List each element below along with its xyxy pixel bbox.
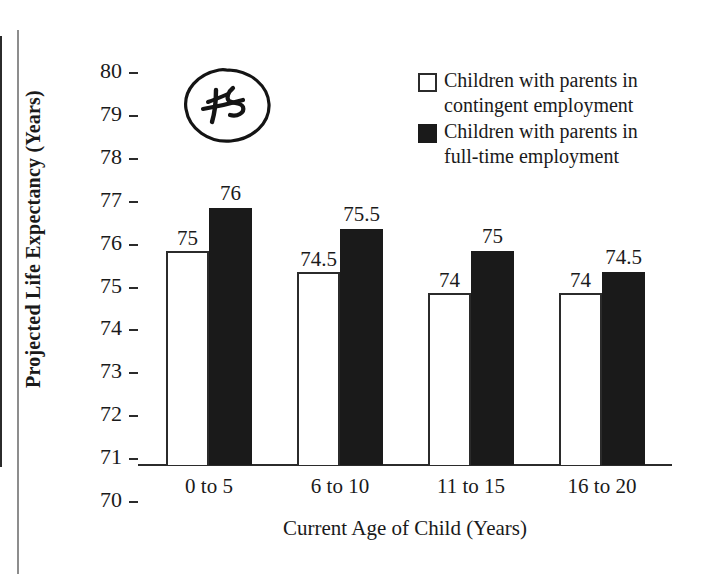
y-axis-tick-label: 76: [100, 231, 122, 255]
y-axis-title: Projected Life Expectancy (Years): [22, 4, 58, 474]
legend-swatch-filled-square-icon: [418, 124, 437, 143]
bar-value-label: 75.5: [343, 203, 380, 225]
bar-value-label: 74.5: [300, 248, 337, 270]
bar-fulltime-employment: 75: [471, 251, 514, 466]
x-axis-title: Current Age of Child (Years): [138, 516, 672, 541]
y-axis-tick: 74: [129, 329, 138, 331]
bar-contingent-employment: 74: [428, 293, 471, 465]
y-axis-line: [0, 36, 2, 467]
y-axis-tick: 77: [129, 201, 138, 203]
y-axis-tick-label: 79: [100, 102, 122, 126]
bar-value-label: 74: [439, 269, 460, 291]
bar-contingent-employment: 74.5: [297, 272, 340, 465]
bar-fulltime-employment: 74.5: [602, 272, 645, 465]
y-axis-tick: 70: [129, 501, 138, 503]
y-axis-tick-label: 70: [100, 488, 122, 512]
bar-value-label: 74: [570, 269, 591, 291]
bar-value-label: 74.5: [605, 246, 642, 268]
y-axis-tick: 80: [129, 72, 138, 74]
legend-item: Children with parents in contingent empl…: [418, 68, 694, 118]
y-axis-tick-label: 80: [100, 59, 122, 83]
y-axis-tick: 73: [129, 372, 138, 374]
bar-fulltime-employment: 76: [209, 208, 252, 465]
bar-contingent-employment: 75: [166, 251, 209, 466]
y-axis-tick: 78: [129, 158, 138, 160]
y-axis-tick: 76: [129, 244, 138, 246]
bar-value-label: 76: [220, 182, 241, 204]
y-axis-tick-label: 74: [100, 316, 122, 340]
legend-item-label: Children with parents in contingent empl…: [444, 68, 638, 118]
legend-item-label: Children with parents in full-time emplo…: [444, 119, 638, 169]
bar-value-label: 75: [482, 225, 503, 247]
y-axis-tick-label: 77: [100, 188, 122, 212]
y-axis-tick: 75: [129, 287, 138, 289]
page-edge-rule: [17, 30, 19, 574]
y-axis-tick-label: 72: [100, 402, 122, 426]
y-axis-tick-label: 71: [100, 445, 122, 469]
handwritten-ellipse-icon: [181, 66, 273, 144]
legend-swatch-open-square-icon: [418, 73, 437, 92]
bar-value-label: 75: [177, 227, 198, 249]
x-axis-category-label: 6 to 10: [311, 474, 369, 498]
y-axis-tick-label: 78: [100, 145, 122, 169]
legend-item: Children with parents in full-time emplo…: [418, 119, 694, 169]
handwritten-annotation-circled-75: [181, 66, 273, 144]
y-axis-tick: 79: [129, 115, 138, 117]
x-axis-category-label: 0 to 5: [185, 474, 233, 498]
x-axis-category-label: 16 to 20: [568, 474, 637, 498]
chart-legend: Children with parents in contingent empl…: [418, 68, 694, 170]
y-axis-tick: 71: [129, 458, 138, 460]
bar-fulltime-employment: 75.5: [340, 229, 383, 465]
bar-contingent-employment: 74: [559, 293, 602, 465]
y-axis-tick-label: 73: [100, 359, 122, 383]
x-axis-category-label: 11 to 15: [437, 474, 505, 498]
y-axis-tick: 72: [129, 415, 138, 417]
y-axis-tick-label: 75: [100, 274, 122, 298]
